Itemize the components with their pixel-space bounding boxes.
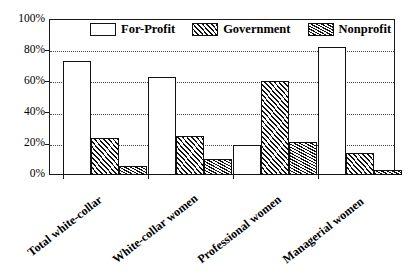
- legend-label-nonprofit: Nonprofit: [339, 22, 392, 37]
- bar-white-collar-women-nonprofit: [204, 159, 232, 175]
- x-tick-2: [233, 175, 234, 179]
- legend-label-for-profit: For-Profit: [121, 22, 175, 37]
- bar-total-white-collar-for-profit: [63, 61, 91, 175]
- legend-swatch-government-icon: [192, 23, 218, 36]
- bar-white-collar-women-government: [176, 136, 204, 175]
- x-axis-label-total-white-collar: Total white-collar: [25, 192, 106, 260]
- legend-label-government: Government: [223, 22, 290, 37]
- y-tick-label-60: 60%: [1, 75, 45, 86]
- bar-managerial-women-government: [346, 153, 374, 175]
- legend: For-Profit Government Nonprofit: [90, 22, 391, 37]
- x-axis-label-managerial-women: Managerial women: [280, 194, 367, 267]
- x-tick-1: [148, 175, 149, 179]
- legend-item-for-profit: For-Profit: [90, 22, 175, 37]
- legend-item-nonprofit: Nonprofit: [308, 22, 392, 37]
- y-tick-label-100: 100%: [1, 13, 45, 24]
- legend-item-government: Government: [192, 22, 290, 37]
- legend-swatch-for-profit-icon: [90, 23, 116, 36]
- bar-total-white-collar-government: [91, 138, 119, 175]
- bars-layer: [49, 19, 395, 175]
- y-tick-label-20: 20%: [1, 137, 45, 148]
- bar-professional-women-for-profit: [233, 145, 261, 175]
- legend-swatch-nonprofit-icon: [308, 23, 334, 36]
- bar-white-collar-women-for-profit: [148, 77, 176, 175]
- y-tick-label-40: 40%: [1, 106, 45, 117]
- bar-professional-women-nonprofit: [289, 142, 317, 175]
- x-tick-0: [63, 175, 64, 179]
- x-axis-label-white-collar-women: White-collar women: [110, 191, 201, 267]
- y-tick-label-80: 80%: [1, 44, 45, 55]
- bar-managerial-women-nonprofit: [374, 170, 402, 175]
- x-axis-label-professional-women: Professional women: [195, 192, 285, 267]
- bar-chart: 100% 80% 60% 40% 20% 0%: [0, 0, 416, 275]
- bar-professional-women-government: [261, 81, 289, 175]
- y-tick-label-0: 0%: [1, 168, 45, 179]
- bar-total-white-collar-nonprofit: [119, 166, 147, 175]
- bar-managerial-women-for-profit: [318, 47, 346, 175]
- x-tick-3: [318, 175, 319, 179]
